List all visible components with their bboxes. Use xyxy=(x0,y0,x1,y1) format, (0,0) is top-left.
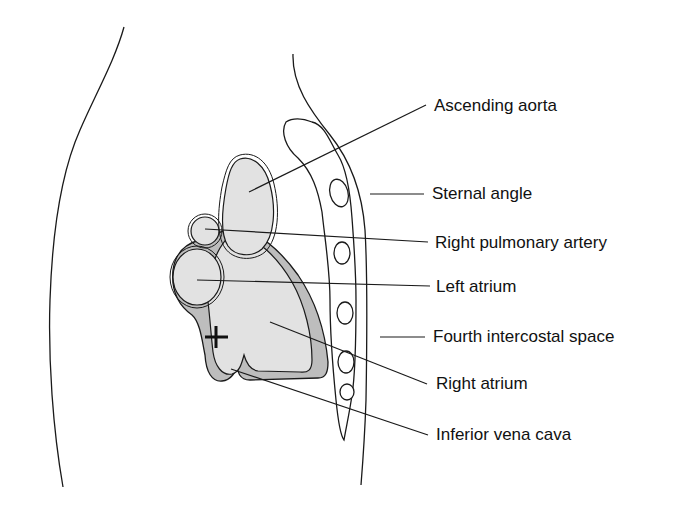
right-atrium-chamber xyxy=(208,232,312,374)
label-sternal-angle: Sternal angle xyxy=(432,184,532,204)
label-fourth-intercostal-space: Fourth intercostal space xyxy=(433,327,614,347)
label-left-atrium: Left atrium xyxy=(436,277,516,297)
label-inferior-vena-cava: Inferior vena cava xyxy=(436,425,571,445)
posterior-body-outline xyxy=(50,27,124,487)
label-right-atrium: Right atrium xyxy=(436,374,528,394)
label-ascending-aorta: Ascending aorta xyxy=(434,96,557,116)
right-pulmonary-artery-vessel xyxy=(191,217,219,245)
ascending-aorta-vessel xyxy=(223,158,274,255)
heart xyxy=(170,154,328,381)
label-right-pulmonary-artery: Right pulmonary artery xyxy=(435,233,607,253)
heart-lateral-illustration xyxy=(0,0,697,515)
left-atrium-chamber xyxy=(173,249,221,305)
diagram-canvas: Ascending aorta Sternal angle Right pulm… xyxy=(0,0,697,515)
